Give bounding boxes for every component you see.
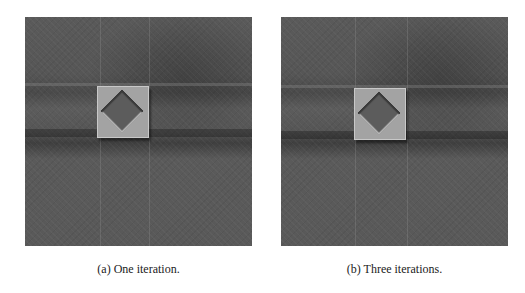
subfigure-a-caption: (a) One iteration.: [25, 262, 252, 277]
reconstructed-diamond: [358, 92, 400, 134]
subfigure-b-caption: (b) Three iterations.: [281, 262, 508, 277]
subfigure-b-image: [281, 17, 508, 246]
reconstructed-square: [97, 86, 149, 138]
subfigure-a-image: [25, 17, 252, 246]
reconstructed-diamond: [101, 90, 143, 132]
reconstructed-square: [354, 88, 406, 140]
